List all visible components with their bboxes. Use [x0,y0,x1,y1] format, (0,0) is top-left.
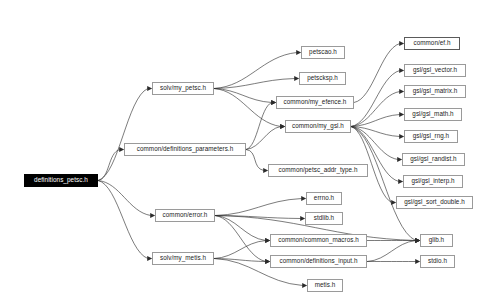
graph-node-macros[interactable]: common/common_macros.h [270,234,367,247]
graph-edge-my_petsc-to-petscao [214,53,297,89]
graph-edge-defs_par-to-addr_type [246,150,264,171]
graph-node-label: gsl/gsl_rng.h [413,133,449,139]
graph-node-label: gsl/gsl_math.h [412,111,453,117]
graph-edge-error-to-errno [215,199,302,216]
graph-node-gsl_interp[interactable]: gsl/gsl_interp.h [403,175,463,188]
graph-node-stdlib[interactable]: stdlib.h [305,212,343,225]
graph-edge-root-to-my_metis [98,181,148,259]
graph-node-label: stdio.h [428,258,447,264]
graph-node-error[interactable]: common/error.h [155,209,215,222]
graph-edge-my_gsl-to-gsl_matrix [351,92,400,127]
graph-node-label: solv/my_petsc.h [160,85,206,91]
graph-node-label: common/common_macros.h [278,237,359,243]
graph-edge-defs_par-to-my_gsl [246,127,281,150]
graph-node-gsl_rng[interactable]: gsl/gsl_rng.h [404,130,458,143]
graph-node-label: gsl/gsl_interp.h [411,178,454,184]
graph-edge-my_petsc-to-my_efence [214,89,272,103]
graph-edge-my_petsc-to-my_gsl [214,89,281,127]
graph-edge-my_metis-to-macros [214,241,266,259]
graph-node-my_petsc[interactable]: solv/my_petsc.h [152,82,214,95]
graph-node-gsl_vector[interactable]: gsl/gsl_vector.h [404,64,466,77]
graph-node-label: petscksp.h [307,75,338,81]
graph-node-label: petscao.h [309,49,337,55]
graph-node-gsl_randist[interactable]: gsl/gsl_randist.h [402,153,465,166]
graph-node-label: common/definitions_input.h [280,258,358,264]
graph-edge-my_gsl-to-gsl_rng [351,127,400,137]
graph-node-gsl_sort[interactable]: gsl/gsl_sort_double.h [396,196,473,209]
graph-node-errno[interactable]: errno.h [306,192,342,205]
graph-edge-root-to-my_petsc [98,89,148,181]
graph-node-label: common/ef.h [414,40,451,46]
graph-node-label: common/my_efence.h [284,99,347,105]
graph-node-label: common/my_gsl.h [292,123,344,129]
graph-node-stdio[interactable]: stdio.h [420,255,455,268]
graph-node-defs_input[interactable]: common/definitions_input.h [270,255,367,268]
graph-edge-my_gsl-to-gsl_randist [351,127,398,160]
graph-node-addr_type[interactable]: common/petsc_addr_type.h [268,164,368,177]
graph-edge-error-to-macros [215,216,266,241]
graph-edge-my_petsc-to-petscksp [214,79,295,89]
graph-edge-my_gsl-to-gsl_vector [351,71,400,127]
graph-node-root[interactable]: definitions_petsc.h [24,174,98,187]
graph-node-petscksp[interactable]: petscksp.h [299,72,346,85]
graph-node-label: common/petsc_addr_type.h [279,167,358,173]
graph-node-ef[interactable]: common/ef.h [404,37,460,50]
graph-node-label: stdlib.h [314,215,334,221]
graph-node-label: metis.h [315,282,336,288]
graph-node-defs_par[interactable]: common/definitions_parameters.h [124,143,246,156]
include-dependency-graph: definitions_petsc.hsolv/my_petsc.hcommon… [0,0,504,307]
graph-node-gsl_matrix[interactable]: gsl/gsl_matrix.h [404,85,466,98]
graph-node-my_metis[interactable]: solv/my_metis.h [152,252,214,265]
graph-node-label: gsl/gsl_randist.h [410,156,456,162]
graph-node-label: common/error.h [163,212,208,218]
graph-node-label: solv/my_metis.h [160,255,206,261]
graph-node-petscao[interactable]: petscao.h [301,46,345,59]
graph-node-label: definitions_petsc.h [34,177,88,183]
graph-node-label: gsl/gsl_sort_double.h [404,199,465,205]
graph-node-label: glib.h [429,237,444,243]
graph-node-my_efence[interactable]: common/my_efence.h [276,96,354,109]
graph-node-metis[interactable]: metis.h [307,279,343,292]
graph-node-glib[interactable]: glib.h [420,234,453,247]
graph-node-label: errno.h [314,195,334,201]
graph-node-label: gsl/gsl_vector.h [413,67,457,73]
graph-node-label: common/definitions_parameters.h [137,146,233,152]
graph-node-label: gsl/gsl_matrix.h [413,88,458,94]
graph-node-my_gsl[interactable]: common/my_gsl.h [285,120,351,133]
graph-node-gsl_math[interactable]: gsl/gsl_math.h [404,108,462,121]
graph-edge-defs_input-to-glib [367,241,416,262]
